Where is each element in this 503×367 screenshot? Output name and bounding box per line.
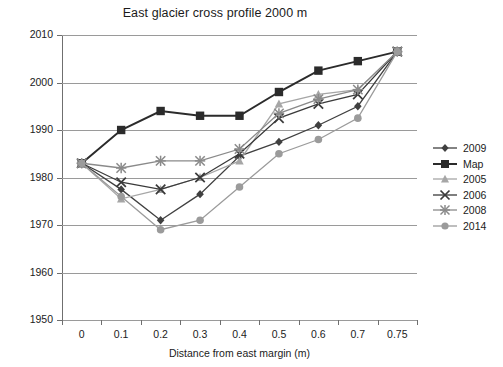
data-point-diamond (117, 185, 125, 193)
chart-container: East glacier cross profile 2000 m 195019… (0, 0, 503, 367)
legend-label: 2009 (463, 142, 486, 154)
data-point-circle (393, 48, 401, 56)
x-axis-label: 0 (79, 328, 85, 340)
data-point-circle (78, 159, 86, 167)
series-2014 (78, 48, 401, 234)
y-axis-label: 2010 (30, 28, 53, 40)
legend-label: 2014 (463, 220, 486, 232)
data-point-square (441, 160, 449, 168)
x-axis-tick (417, 320, 418, 325)
series-line (82, 52, 398, 190)
data-point-square (314, 66, 322, 74)
legend-item-2014[interactable]: 2014 (432, 220, 486, 232)
y-axis-label: 1980 (30, 171, 53, 183)
data-point-diamond (275, 138, 283, 146)
data-point-asterisk (274, 108, 284, 118)
x-axis-label: 0.7 (351, 328, 366, 340)
legend-item-2008[interactable]: 2008 (432, 204, 486, 216)
data-point-square (156, 107, 164, 115)
legend-label: 2005 (463, 173, 486, 185)
x-axis-label: 0.5 (272, 328, 287, 340)
plot-area: 1950196019701980199020002010 (62, 35, 417, 320)
legend-marker-cross-icon (432, 189, 458, 201)
chart-title: East glacier cross profile 2000 m (0, 6, 430, 20)
data-point-circle (196, 216, 204, 224)
data-point-asterisk (440, 205, 450, 215)
y-axis-label: 1970 (30, 218, 53, 230)
x-axis-label: 0.2 (153, 328, 168, 340)
legend-item-2009[interactable]: 2009 (432, 142, 486, 154)
series-line (82, 52, 398, 221)
series-line (82, 52, 398, 230)
legend-label: Map (463, 158, 483, 170)
data-point-square (196, 112, 204, 120)
data-point-circle (117, 193, 125, 201)
x-axis-label: 0.1 (114, 328, 129, 340)
legend-item-2006[interactable]: 2006 (432, 189, 486, 201)
data-point-diamond (315, 121, 323, 129)
data-point-asterisk (116, 163, 126, 173)
x-axis-label: 0.6 (311, 328, 326, 340)
data-point-square (235, 112, 243, 120)
x-axis-tick (378, 320, 379, 325)
legend-marker-triangle-icon (432, 173, 458, 185)
data-point-asterisk (234, 144, 244, 154)
data-point-circle (275, 150, 283, 158)
x-axis-tick (220, 320, 221, 325)
x-axis-tick (259, 320, 260, 325)
data-point-circle (315, 136, 323, 144)
data-point-circle (157, 226, 165, 234)
data-point-asterisk (353, 84, 363, 94)
x-axis-tick (62, 320, 63, 325)
data-point-asterisk (313, 94, 323, 104)
gridline (62, 320, 417, 321)
x-axis-label: 0.75 (387, 328, 407, 340)
x-axis-tick (101, 320, 102, 325)
legend-item-Map[interactable]: Map (432, 158, 486, 170)
y-axis-label: 1950 (30, 313, 53, 325)
legend-marker-diamond-icon (432, 142, 458, 154)
x-axis-tick (299, 320, 300, 325)
legend-item-2005[interactable]: 2005 (432, 173, 486, 185)
data-point-asterisk (155, 156, 165, 166)
data-point-circle (236, 183, 244, 191)
legend-marker-circle-icon (432, 220, 458, 232)
data-point-circle (354, 114, 362, 122)
legend-label: 2008 (463, 204, 486, 216)
data-point-square (117, 126, 125, 134)
chart-legend: 2009Map2005200620082014 (432, 142, 486, 232)
data-point-diamond (157, 216, 165, 224)
x-axis-title: Distance from east margin (m) (62, 347, 417, 359)
data-point-square (354, 57, 362, 65)
x-axis-tick (338, 320, 339, 325)
y-axis-label: 2000 (30, 76, 53, 88)
data-point-diamond (441, 144, 448, 152)
x-axis-label: 0.4 (232, 328, 247, 340)
y-axis-label: 1990 (30, 123, 53, 135)
series-2008 (77, 46, 403, 173)
legend-marker-asterisk-icon (432, 204, 458, 216)
data-point-asterisk (195, 156, 205, 166)
x-axis-label: 0.3 (193, 328, 208, 340)
data-series-layer (62, 35, 417, 320)
data-point-circle (441, 222, 448, 229)
data-point-square (275, 88, 283, 96)
x-axis-tick (141, 320, 142, 325)
legend-label: 2006 (463, 189, 486, 201)
legend-marker-square-icon (432, 158, 458, 170)
y-axis-label: 1960 (30, 266, 53, 278)
x-axis-tick (180, 320, 181, 325)
series-2005 (78, 47, 402, 202)
